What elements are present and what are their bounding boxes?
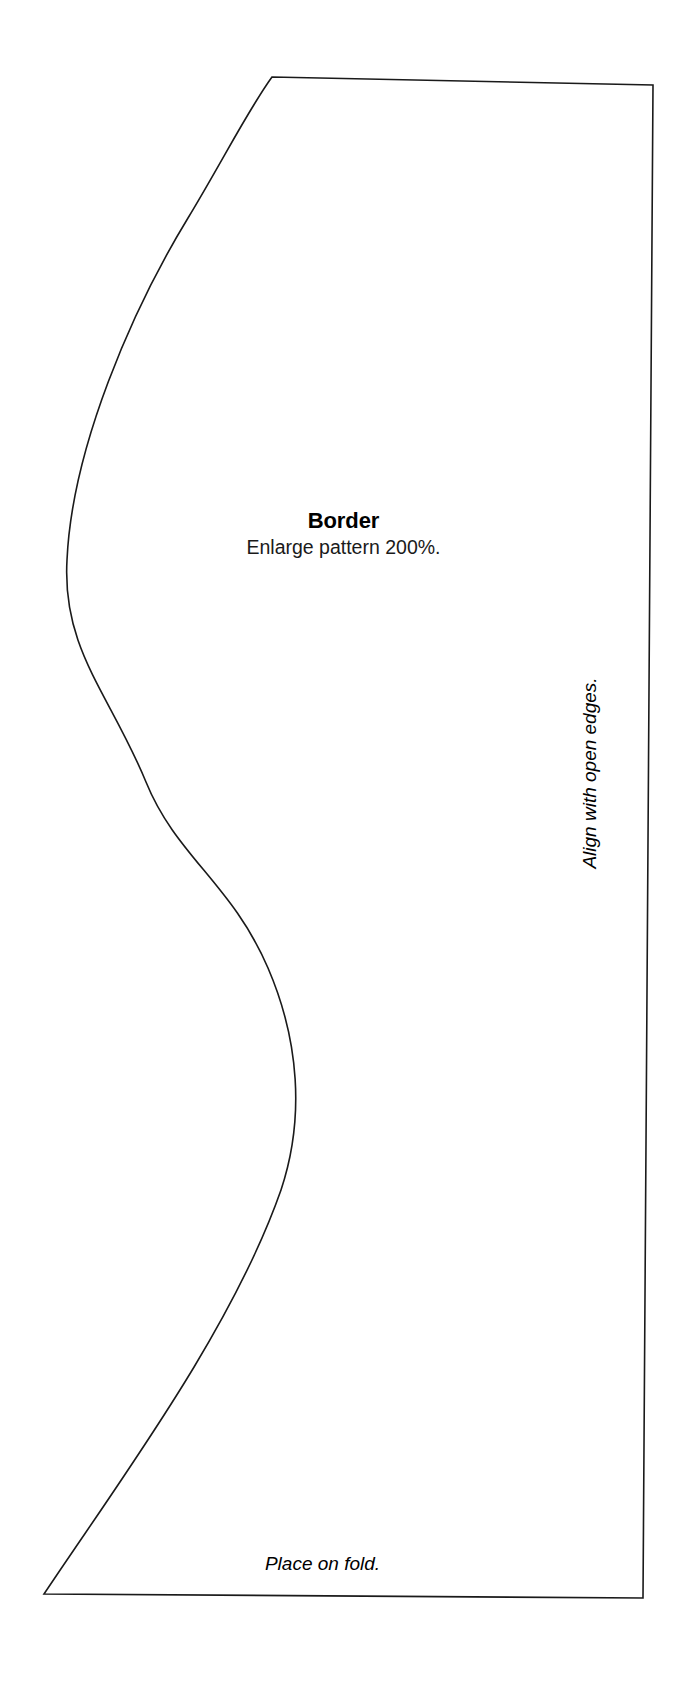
place-on-fold-note: Place on fold. [0,1553,645,1575]
pattern-title-block: Border Enlarge pattern 200%. [0,508,687,559]
pattern-sheet: Border Enlarge pattern 200%. Align with … [0,0,687,1686]
pattern-outline-path [44,77,653,1598]
page-title: Border [0,508,687,534]
scale-instruction: Enlarge pattern 200%. [0,536,687,559]
align-open-edges-note: Align with open edges. [579,677,601,868]
